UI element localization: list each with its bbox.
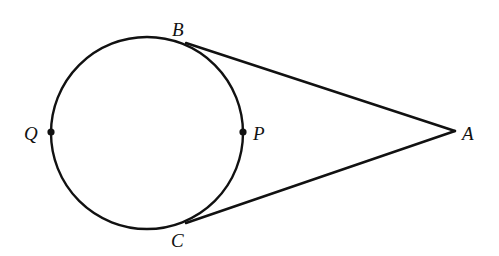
label-a: A	[460, 123, 474, 144]
geometry-diagram: B Q P A C	[0, 0, 499, 256]
label-c: C	[171, 230, 184, 251]
tangent-segment-ab	[186, 43, 455, 131]
point-q-dot	[47, 128, 54, 135]
circle	[51, 37, 243, 229]
point-p-dot	[239, 128, 246, 135]
tangent-segment-ac	[186, 131, 455, 223]
label-b: B	[172, 19, 184, 40]
label-p: P	[252, 123, 265, 144]
label-q: Q	[24, 123, 38, 144]
